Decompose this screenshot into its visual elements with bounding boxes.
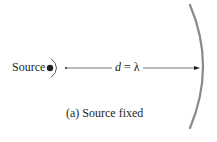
source-dot-icon [47, 65, 53, 71]
reflecting-wall-arc [190, 5, 203, 128]
distance-equals: = [121, 60, 134, 74]
figure-caption: (a) Source fixed [66, 107, 143, 119]
distance-value: λ [134, 60, 140, 74]
diagram-source-fixed: Source d = λ (a) Source fixed [0, 0, 217, 142]
distance-label: d = λ [112, 61, 143, 73]
arrowhead-icon [194, 66, 200, 70]
source-label: Source [12, 61, 45, 73]
